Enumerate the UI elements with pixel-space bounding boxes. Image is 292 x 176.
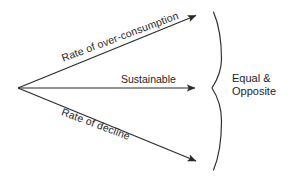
equal-opposite-label: Equal & Opposite	[232, 72, 276, 99]
diagram-canvas: Rate of over-consumption Sustainable Rat…	[0, 0, 292, 176]
sustainable-label: Sustainable	[121, 73, 176, 86]
right-curly-brace	[212, 12, 222, 170]
equal-opposite-line-2: Opposite	[232, 85, 276, 98]
equal-opposite-line-1: Equal &	[232, 72, 276, 85]
